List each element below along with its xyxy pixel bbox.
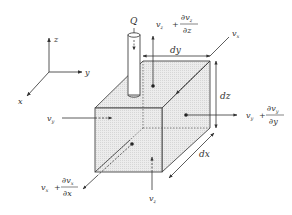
vz-in-label: vz: [149, 194, 157, 204]
x-axis-label: x: [18, 97, 23, 106]
vx-out-arrow: [83, 176, 97, 189]
x-axis: [27, 72, 49, 96]
svg-text:+: +: [54, 183, 61, 192]
coordinate-axes: [27, 38, 82, 96]
svg-text:∂vy: ∂vy: [267, 104, 279, 115]
z-axis-label: z: [53, 35, 59, 44]
vx-out-label: vx + ∂vx ∂x: [41, 176, 78, 198]
source-tube: [128, 33, 140, 97]
vy-out-label: vy + ∂vy ∂y: [246, 104, 284, 126]
svg-text:+: +: [172, 20, 179, 29]
vx-in-label: vx: [232, 29, 240, 39]
svg-text:∂z: ∂z: [183, 26, 192, 35]
svg-text:∂x: ∂x: [63, 189, 72, 198]
source-label: Q: [130, 16, 138, 26]
cube-element: [95, 61, 210, 172]
svg-text:∂vx: ∂vx: [62, 176, 74, 186]
dy-label: dy: [170, 45, 182, 55]
svg-text:vx: vx: [41, 183, 49, 193]
svg-text:vz: vz: [156, 20, 164, 30]
y-axis-label: y: [84, 68, 90, 77]
vy-in-label: vy: [47, 114, 55, 125]
control-volume-diagram: z y x Q dy dz dx vz + ∂vz ∂z: [0, 0, 292, 215]
vx-in-line: [210, 37, 229, 56]
svg-text:∂vz: ∂vz: [181, 13, 193, 23]
dz-label: dz: [220, 91, 231, 101]
svg-text:+: +: [259, 111, 266, 120]
dx-label: dx: [199, 149, 210, 159]
svg-text:∂y: ∂y: [269, 117, 278, 126]
vz-out-label: vz + ∂vz ∂z: [156, 13, 198, 35]
svg-text:vy: vy: [246, 111, 254, 122]
